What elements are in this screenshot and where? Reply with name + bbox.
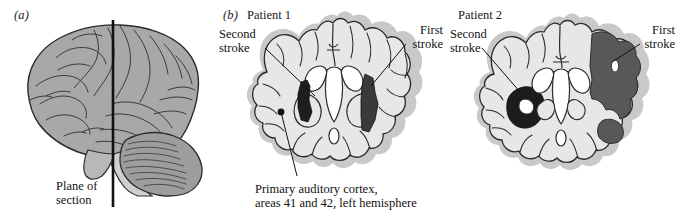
patient-2-second-stroke-line2: stroke	[450, 42, 487, 56]
lesion-first-stroke-lower-icon	[598, 119, 624, 143]
patient-1-second-stroke-line2: stroke	[219, 42, 256, 56]
temporal-pole	[84, 150, 114, 179]
patient-1-first-stroke-line2: stroke	[412, 38, 443, 52]
patient-2-first-stroke-line1: First	[644, 24, 675, 38]
patient-1-second-stroke-label: Second stroke	[219, 28, 256, 55]
auditory-cortex-caption: Primary auditory cortex, areas 41 and 42…	[255, 182, 417, 210]
panel-b-patient-1: (b) Patient 1	[215, 0, 445, 217]
plane-of-section-label: Plane of section	[56, 179, 97, 207]
patient-1-first-stroke-label: First stroke	[412, 24, 443, 51]
panel-c-patient-2: Patient 2	[440, 0, 681, 217]
panel-a-lateral-brain: (a)	[0, 0, 215, 217]
plane-of-section-label-line1: Plane of	[56, 179, 97, 193]
fourth-ventricle-icon	[556, 130, 566, 146]
auditory-cortex-caption-line1: Primary auditory cortex,	[255, 182, 417, 196]
fourth-ventricle-icon	[329, 128, 339, 144]
patient-2-first-stroke-line2: stroke	[644, 38, 675, 52]
patient-2-second-stroke-label: Second stroke	[450, 28, 487, 55]
patient-1-first-stroke-line1: First	[412, 24, 443, 38]
auditory-cortex-caption-line2: areas 41 and 42, left hemisphere	[255, 196, 417, 210]
figure-root: (a)	[0, 0, 681, 217]
patient-1-second-stroke-line1: Second	[219, 28, 256, 42]
patient-2-second-stroke-line1: Second	[450, 28, 487, 42]
patient-2-first-stroke-label: First stroke	[644, 24, 675, 51]
lesion-second-stroke-cavity	[519, 99, 534, 114]
brain-lateral-icon	[0, 0, 215, 217]
plane-of-section-label-line2: section	[56, 193, 97, 207]
